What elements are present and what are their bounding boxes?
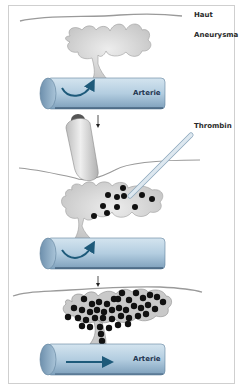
label-skin: Haut [194,11,213,19]
label-artery-bottom: Arterie [133,355,161,363]
aneurysm-sac [62,182,163,240]
label-aneurysm: Aneurysma [194,31,238,39]
ultrasound-probe [66,114,98,181]
thrombin-needle [130,135,191,196]
aneurysm-sac [66,24,151,80]
label-thrombin: Thrombin [194,122,232,130]
skin-line [20,14,182,21]
stage-2 [19,114,200,269]
diagram-canvas [0,0,245,389]
artery-middle [40,238,165,269]
label-artery-top: Arterie [133,89,161,97]
stage-3 [13,287,202,375]
skin-line [19,160,200,180]
